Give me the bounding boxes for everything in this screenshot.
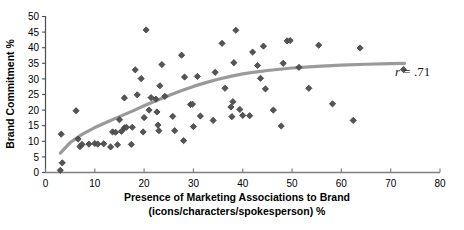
data-point bbox=[180, 138, 186, 144]
data-point bbox=[233, 27, 239, 33]
data-point bbox=[280, 60, 286, 66]
y-tick-label: 25 bbox=[28, 89, 40, 100]
data-point bbox=[219, 40, 225, 46]
y-tick-label: 20 bbox=[28, 105, 40, 116]
data-point bbox=[134, 92, 140, 98]
data-point bbox=[257, 75, 263, 81]
data-point bbox=[128, 141, 134, 147]
data-point bbox=[350, 117, 356, 123]
data-point bbox=[121, 95, 127, 101]
data-point bbox=[138, 75, 144, 81]
data-point bbox=[129, 124, 135, 130]
data-point bbox=[141, 114, 147, 120]
y-tick-label: 10 bbox=[28, 136, 40, 147]
x-tick-label: 40 bbox=[237, 178, 249, 189]
data-point bbox=[250, 49, 256, 55]
data-point bbox=[197, 113, 203, 119]
data-point bbox=[156, 128, 162, 134]
data-point bbox=[237, 106, 243, 112]
data-point bbox=[260, 43, 266, 49]
data-point bbox=[101, 141, 107, 147]
y-tick-label: 5 bbox=[33, 152, 39, 163]
data-point bbox=[114, 142, 120, 148]
data-point bbox=[146, 107, 152, 113]
data-point bbox=[231, 60, 237, 66]
y-tick-label: 40 bbox=[28, 42, 40, 53]
y-axis-tick-labels: 05101520253035404550 bbox=[28, 11, 40, 178]
y-axis-title: Brand Commitment % bbox=[4, 39, 16, 149]
data-point bbox=[140, 129, 146, 135]
x-tick-label: 70 bbox=[385, 178, 397, 189]
y-tick-label: 15 bbox=[28, 120, 40, 131]
data-point bbox=[247, 113, 253, 119]
data-point bbox=[107, 144, 113, 150]
data-point-group bbox=[57, 27, 406, 174]
x-tick-label: 50 bbox=[287, 178, 299, 189]
plot-canvas: 05101520253035404550 01020304050607080 B… bbox=[0, 0, 464, 230]
data-point bbox=[157, 83, 163, 89]
y-tick-label: 45 bbox=[28, 27, 40, 38]
data-point bbox=[240, 112, 246, 118]
x-tick-label: 30 bbox=[188, 178, 200, 189]
data-point bbox=[254, 62, 260, 68]
x-tick-label: 0 bbox=[43, 178, 49, 189]
data-point bbox=[316, 42, 322, 48]
x-tick-label: 10 bbox=[89, 178, 101, 189]
data-point bbox=[73, 108, 79, 114]
data-point bbox=[262, 86, 268, 92]
data-point bbox=[270, 107, 276, 113]
data-point bbox=[155, 122, 161, 128]
data-point bbox=[278, 123, 284, 129]
data-point bbox=[181, 74, 187, 80]
data-point bbox=[229, 114, 235, 120]
data-point bbox=[210, 117, 216, 123]
data-point bbox=[222, 85, 228, 91]
data-point bbox=[154, 109, 160, 115]
data-point bbox=[212, 69, 218, 75]
data-point bbox=[357, 45, 363, 51]
data-point bbox=[190, 124, 196, 130]
scatter-plot-figure: 05101520253035404550 01020304050607080 B… bbox=[0, 0, 464, 230]
correlation-annotation: r = .71 bbox=[395, 64, 430, 79]
correlation-value: = .71 bbox=[400, 64, 430, 79]
data-point bbox=[59, 160, 65, 166]
x-tick-label: 20 bbox=[139, 178, 151, 189]
data-point bbox=[172, 128, 178, 134]
data-point bbox=[170, 113, 176, 119]
y-tick-label: 35 bbox=[28, 58, 40, 69]
data-point bbox=[179, 52, 185, 58]
data-point bbox=[306, 85, 312, 91]
y-tick-label: 30 bbox=[28, 74, 40, 85]
data-point bbox=[159, 61, 165, 67]
data-point bbox=[329, 101, 335, 107]
y-tick-label: 50 bbox=[28, 11, 40, 22]
y-tick-label: 0 bbox=[33, 167, 39, 178]
x-tick-label: 80 bbox=[434, 178, 446, 189]
x-tick-label: 60 bbox=[336, 178, 348, 189]
x-axis-tick-labels: 01020304050607080 bbox=[43, 178, 446, 189]
x-axis-title-line2: (icons/characters/spokesperson) % bbox=[149, 205, 326, 217]
data-point bbox=[194, 73, 200, 79]
data-point bbox=[132, 67, 138, 73]
x-axis-title-line1: Presence of Marketing Associations to Br… bbox=[124, 191, 350, 203]
data-point bbox=[296, 64, 302, 70]
data-point bbox=[143, 27, 149, 33]
data-point bbox=[58, 131, 64, 137]
data-point bbox=[86, 141, 92, 147]
